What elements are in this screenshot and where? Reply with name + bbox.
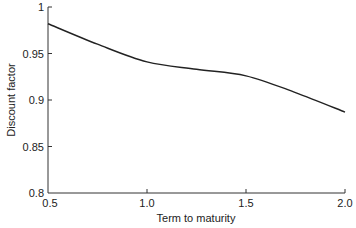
x-tick-label: 0.5	[42, 197, 57, 209]
y-tick-label: 0.9	[29, 94, 44, 106]
x-tick-label: 2.0	[337, 197, 352, 209]
y-tick-label: 0.95	[23, 48, 44, 60]
x-ticks: 0.5 1.0 1.5 2.0	[42, 189, 352, 209]
chart: 0.8 0.85 0.9 0.95 1 0.5 1.0 1.5 2.0 Term…	[0, 0, 356, 228]
x-tick-label: 1.0	[139, 197, 154, 209]
x-axis-label: Term to maturity	[157, 212, 236, 224]
discount-factor-line	[48, 24, 345, 112]
y-axis-label: Discount factor	[5, 63, 17, 137]
y-tick-label: 0.85	[23, 141, 44, 153]
y-tick-label: 1	[38, 1, 44, 13]
x-tick-label: 1.5	[238, 197, 253, 209]
